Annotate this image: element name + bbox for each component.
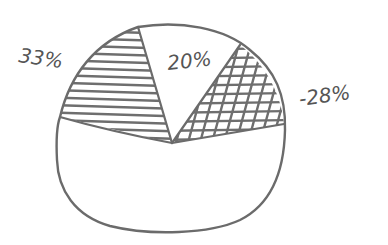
hatch-line xyxy=(50,75,180,79)
hatch-line xyxy=(50,143,180,147)
hatch-line xyxy=(50,45,180,49)
hatch-line xyxy=(50,135,180,139)
crosshatch-line xyxy=(160,120,290,122)
crosshatch-line xyxy=(160,75,290,77)
hatch-line xyxy=(50,30,180,34)
hatch-line xyxy=(50,53,180,57)
hatch-line xyxy=(50,83,180,87)
slice-label-28: -28% xyxy=(297,80,352,111)
hatch-line xyxy=(50,60,180,64)
crosshatch-line xyxy=(160,138,290,140)
crosshatch-line xyxy=(258,40,288,150)
pie-chart: 33% 20% -28% xyxy=(0,0,388,245)
crosshatch-line xyxy=(160,84,290,86)
crosshatch-line xyxy=(160,147,290,149)
slice-label-33: 33% xyxy=(17,43,64,73)
slice-label-20: 20% xyxy=(166,46,213,75)
crosshatch-line xyxy=(160,111,290,113)
hatch-line xyxy=(50,68,180,72)
hatch-line xyxy=(50,113,180,117)
